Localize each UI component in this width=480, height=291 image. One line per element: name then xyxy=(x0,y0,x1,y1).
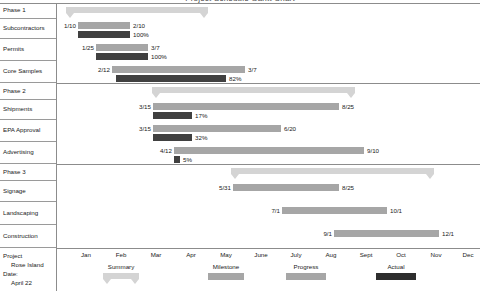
row-label-phase-1[interactable]: Phase 1 xyxy=(0,3,56,19)
row-label-text: EPA Approval xyxy=(3,127,40,133)
summary-cap-right-icon xyxy=(426,174,434,179)
row-label-text: Phase 3 xyxy=(3,169,26,175)
row-label-text: Shipments xyxy=(3,106,32,112)
end-label-subcontractors: 2/10 xyxy=(133,22,145,29)
summary-bar-body xyxy=(231,168,434,174)
end-label-permits: 3/7 xyxy=(151,44,160,51)
row-label-phase-3[interactable]: Phase 3 xyxy=(0,164,56,181)
actual-bar-subcontractors[interactable] xyxy=(78,31,130,38)
percent-label-permits: 100% xyxy=(151,53,167,60)
row-label-signage[interactable]: Signage xyxy=(0,181,56,202)
legend-item-summary[interactable]: Summary xyxy=(92,262,150,279)
progress-bar-core-samples[interactable] xyxy=(112,66,245,73)
row-label-text: Construction xyxy=(3,233,38,239)
actual-bar-permits[interactable] xyxy=(96,53,148,60)
project-name: Rose Island xyxy=(3,260,44,269)
axis-month-oct: Oct xyxy=(396,251,406,259)
end-label-advertising: 9/10 xyxy=(367,147,379,154)
project-info: Project Rose Island Date: April 22 xyxy=(3,251,44,287)
axis-month-may: May xyxy=(220,251,232,259)
summary-cap-right-icon xyxy=(347,93,355,98)
progress-bar-construction[interactable] xyxy=(334,230,439,237)
row-label-text: Landscaping xyxy=(3,210,38,216)
axis-month-feb: Feb xyxy=(116,251,127,259)
row-label-shipments[interactable]: Shipments xyxy=(0,100,56,120)
start-label-shipments: 3/15 xyxy=(111,103,151,110)
start-label-landscaping: 7/1 xyxy=(240,207,280,214)
summary-cap-left-icon xyxy=(103,279,111,284)
summary-cap-left-icon xyxy=(231,174,239,179)
row-label-permits[interactable]: Permits xyxy=(0,39,56,61)
row-label-epa-approval[interactable]: EPA Approval xyxy=(0,120,56,142)
row-label-construction[interactable]: Construction xyxy=(0,225,56,248)
row-label-text: Advertising xyxy=(3,149,34,155)
actual-bar-epa-approval[interactable] xyxy=(153,134,192,141)
end-label-core-samples: 3/7 xyxy=(248,66,257,73)
start-label-permits: 1/25 xyxy=(54,44,94,51)
start-label-core-samples: 2/12 xyxy=(70,66,110,73)
summary-bar-phase-1[interactable] xyxy=(66,7,208,18)
row-label-landscaping[interactable]: Landscaping xyxy=(0,202,56,225)
axis-month-july: July xyxy=(290,251,301,259)
row-label-core-samples[interactable]: Core Samples xyxy=(0,61,56,83)
progress-bar-signage[interactable] xyxy=(233,184,339,191)
progress-bar-subcontractors[interactable] xyxy=(78,22,130,29)
row-label-text: Permits xyxy=(3,46,24,52)
project-label: Project xyxy=(3,252,22,259)
summary-cap-left-icon xyxy=(152,93,160,98)
legend-item-progress[interactable]: Progress xyxy=(277,262,335,280)
percent-label-subcontractors: 100% xyxy=(133,31,149,38)
summary-bar-phase-2[interactable] xyxy=(152,87,355,98)
axis-month-aug: Aug xyxy=(325,251,336,259)
row-label-text: Signage xyxy=(3,188,26,194)
group-rule-phase-1-top xyxy=(57,3,480,4)
summary-bar-phase-3[interactable] xyxy=(231,168,434,179)
axis-month-dec: Dec xyxy=(462,251,473,259)
start-label-epa-approval: 3/15 xyxy=(111,125,151,132)
legend-item-milestone[interactable]: Milestone xyxy=(197,262,255,280)
footer-divider xyxy=(56,248,57,291)
end-label-signage: 8/25 xyxy=(342,184,354,191)
axis-month-mar: Mar xyxy=(151,251,162,259)
summary-cap-right-icon xyxy=(131,279,139,284)
start-label-subcontractors: 1/10 xyxy=(36,22,76,29)
row-label-phase-2[interactable]: Phase 2 xyxy=(0,83,56,100)
legend-label-milestone: Milestone xyxy=(197,262,255,271)
start-label-signage: 5/31 xyxy=(191,184,231,191)
row-label-text: Phase 2 xyxy=(3,88,26,94)
progress-bar-epa-approval[interactable] xyxy=(153,125,281,132)
progress-bar-advertising[interactable] xyxy=(174,147,364,154)
plot-area: 1/10 2/10 100% 1/25 3/7 100% 2/12 3/7 82… xyxy=(57,3,480,248)
end-label-epa-approval: 6/20 xyxy=(284,125,296,132)
row-label-advertising[interactable]: Advertising xyxy=(0,142,56,164)
row-label-text: Core Samples xyxy=(3,68,42,74)
axis-month-apr: Apr xyxy=(186,251,196,259)
axis-month-june: June xyxy=(254,251,267,259)
summary-bar-body xyxy=(152,87,355,93)
summary-bar-body xyxy=(66,7,208,13)
group-rule-phase-3-top xyxy=(57,164,480,165)
gantt-chart: Project Schedule Gantt Chart Phase 1 Sub… xyxy=(0,0,480,291)
legend-swatch-summary xyxy=(103,273,139,279)
progress-bar-landscaping[interactable] xyxy=(282,207,387,214)
progress-bar-shipments[interactable] xyxy=(153,103,339,110)
percent-label-core-samples: 82% xyxy=(229,75,241,82)
date-label: Date: xyxy=(3,270,18,277)
summary-cap-left-icon xyxy=(66,13,74,18)
legend-item-actual[interactable]: Actual xyxy=(367,262,425,280)
legend-swatch-actual xyxy=(376,273,416,280)
summary-cap-right-icon xyxy=(200,13,208,18)
start-label-construction: 9/1 xyxy=(292,230,332,237)
legend-label-progress: Progress xyxy=(277,262,335,271)
chart-footer: Project Rose Island Date: April 22 Jan F… xyxy=(0,248,480,291)
actual-bar-advertising[interactable] xyxy=(174,156,180,163)
date-value: April 22 xyxy=(3,278,44,287)
percent-label-epa-approval: 32% xyxy=(195,134,207,141)
legend-swatch-progress xyxy=(286,273,326,280)
legend-swatch-milestone xyxy=(208,273,244,280)
legend-label-actual: Actual xyxy=(367,262,425,271)
actual-bar-shipments[interactable] xyxy=(153,112,192,119)
end-label-shipments: 8/25 xyxy=(342,103,354,110)
progress-bar-permits[interactable] xyxy=(96,44,148,51)
actual-bar-core-samples[interactable] xyxy=(116,75,226,82)
